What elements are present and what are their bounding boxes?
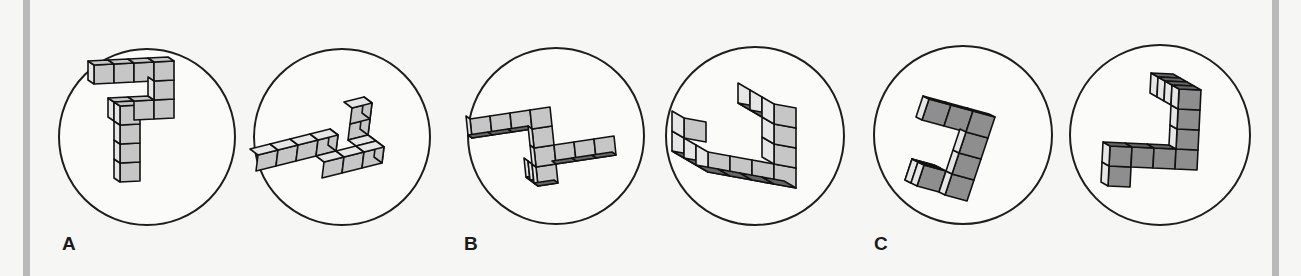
mental-rotation-figure — [0, 0, 1301, 276]
stimulus-circles — [59, 45, 1250, 225]
stimulus-circle-b1 — [468, 48, 644, 224]
panel-label-b: B — [464, 234, 478, 254]
stimulus-circle-c2 — [1070, 45, 1250, 225]
panel-label-c: C — [874, 234, 888, 254]
stimulus-circle-a2 — [254, 49, 430, 225]
panel-label-a: A — [62, 234, 76, 254]
